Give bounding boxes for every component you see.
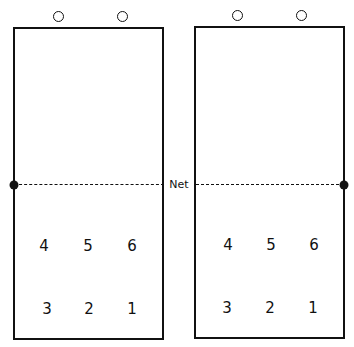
right-court (194, 26, 345, 339)
right-position-6: 6 (309, 238, 319, 253)
left-position-6: 6 (127, 239, 137, 254)
right-position-3: 3 (222, 301, 232, 316)
right-position-5: 5 (266, 238, 276, 253)
right-position-1: 1 (308, 301, 318, 316)
left-position-4: 4 (39, 239, 49, 254)
left-position-3: 3 (42, 302, 52, 317)
left-court-marker-2 (117, 11, 128, 22)
left-position-5: 5 (83, 239, 93, 254)
right-court-marker-1 (232, 10, 243, 21)
left-position-2: 2 (84, 302, 94, 317)
right-court-marker-2 (296, 10, 307, 21)
right-position-4: 4 (223, 238, 233, 253)
left-position-1: 1 (127, 302, 137, 317)
left-net-line (14, 184, 164, 185)
right-net-post-icon (340, 181, 349, 190)
net-label: Net (168, 179, 189, 190)
right-position-2: 2 (265, 301, 275, 316)
left-net-post-icon (10, 181, 19, 190)
left-court-marker-1 (53, 11, 64, 22)
right-net-line (196, 184, 344, 185)
